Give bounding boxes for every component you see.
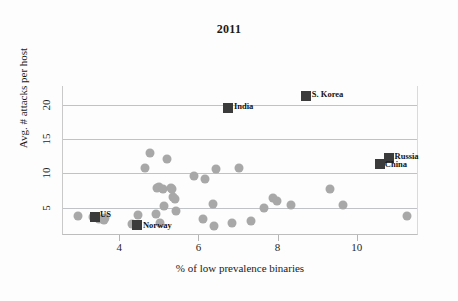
data-point	[159, 202, 168, 211]
data-point-label: US	[100, 209, 111, 219]
data-point	[235, 163, 244, 172]
data-point	[170, 195, 179, 204]
data-point	[210, 222, 219, 231]
data-point	[140, 163, 149, 172]
x-axis-title: % of low prevalence binaries	[62, 262, 418, 274]
data-point	[134, 211, 143, 220]
gridline	[63, 173, 417, 174]
data-point	[208, 200, 217, 209]
data-point	[200, 174, 209, 183]
y-axis-title: Avg. # attacks per host	[17, 28, 29, 168]
data-point	[272, 196, 281, 205]
data-point-highlighted	[223, 103, 233, 113]
y-tick-label: 5	[40, 205, 52, 211]
gridline	[63, 139, 417, 140]
data-point	[74, 212, 83, 221]
x-tick-label: 4	[117, 241, 123, 253]
plot-area: USNorwayIndiaS. KoreaRussiaChina	[62, 86, 418, 235]
data-point-label: Norway	[143, 220, 172, 230]
x-tick-label: 6	[196, 241, 202, 253]
data-point-label: China	[385, 159, 407, 169]
y-tick-label: 20	[40, 99, 52, 110]
data-point	[403, 212, 412, 221]
data-point-highlighted	[375, 159, 385, 169]
data-point	[259, 204, 268, 213]
y-tick-label: 15	[40, 133, 52, 144]
data-point-label: India	[234, 101, 253, 111]
data-point	[326, 184, 335, 193]
x-tick-label: 10	[351, 241, 362, 253]
data-point	[246, 217, 255, 226]
chart-title: 2011	[0, 22, 458, 37]
data-point	[198, 215, 207, 224]
data-point-highlighted	[90, 212, 100, 222]
data-point	[339, 201, 348, 210]
data-point	[171, 206, 180, 215]
data-point-label: S. Korea	[312, 89, 343, 99]
data-point	[228, 218, 237, 227]
data-point	[163, 155, 172, 164]
scatter-chart-figure: 2011 Avg. # attacks per host USNorwayInd…	[0, 0, 458, 301]
data-point-highlighted	[132, 220, 142, 230]
data-point-highlighted	[301, 91, 311, 101]
data-point	[189, 171, 198, 180]
gridline	[63, 208, 417, 209]
y-tick-label: 10	[40, 168, 52, 179]
x-tick-label: 8	[275, 241, 281, 253]
data-point	[145, 149, 154, 158]
data-point	[287, 200, 296, 209]
data-point	[212, 165, 221, 174]
